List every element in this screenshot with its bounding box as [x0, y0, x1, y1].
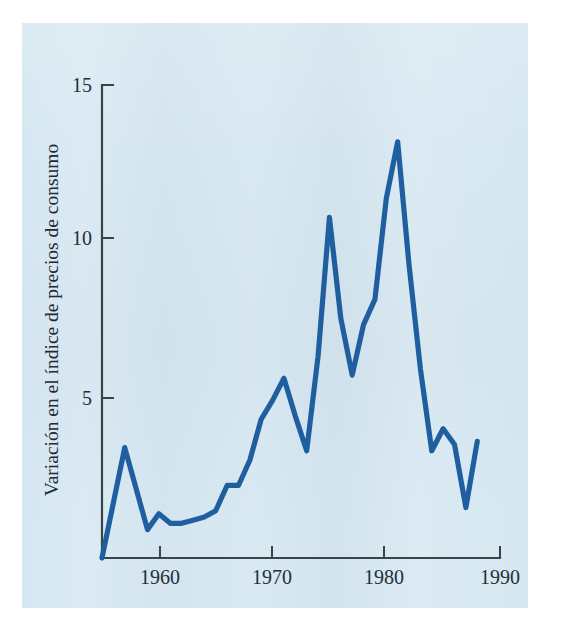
line-chart: Variación en el índice de precios de con… — [0, 0, 567, 631]
x-tick-label-1970: 1970 — [252, 566, 292, 588]
x-tick-label-1980: 1980 — [364, 566, 404, 588]
y-tick-label-5: 5 — [82, 387, 92, 409]
figure-container: Variación en el índice de precios de con… — [0, 0, 567, 631]
x-tick-label-1960: 1960 — [140, 566, 180, 588]
data-series-line — [102, 142, 477, 558]
y-tick-label-10: 10 — [72, 227, 92, 249]
y-axis-label: Variación en el índice de precios de con… — [41, 144, 62, 497]
x-tick-label-1990: 1990 — [480, 566, 520, 588]
y-tick-label-15: 15 — [72, 74, 92, 96]
